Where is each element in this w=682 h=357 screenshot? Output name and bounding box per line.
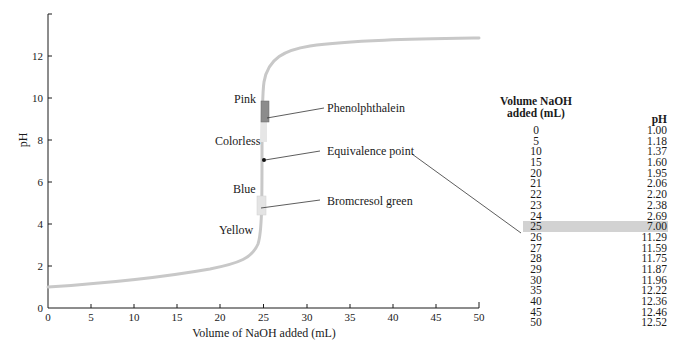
x-tick-30: 30 xyxy=(302,311,314,323)
table-row: 5012.52 xyxy=(490,317,675,328)
label-pink: Pink xyxy=(234,92,256,106)
x-tick-45: 45 xyxy=(431,311,443,323)
header-volume: Volume NaOH added (mL) xyxy=(490,95,582,125)
y-tick-labels: 0 2 4 6 8 10 12 xyxy=(32,50,44,314)
x-tick-25: 25 xyxy=(258,311,270,323)
x-axis-title: Volume of NaOH added (mL) xyxy=(192,326,336,340)
y-tick-12: 12 xyxy=(32,50,43,62)
x-tick-40: 40 xyxy=(388,311,400,323)
label-yellow: Yellow xyxy=(219,223,253,237)
table-row: 232.38 xyxy=(490,200,675,211)
y-tick-0: 0 xyxy=(38,302,44,314)
x-tick-0: 0 xyxy=(45,311,51,323)
header-volume-line1: Volume NaOH xyxy=(490,95,582,107)
x-tick-labels: 0 5 10 15 20 25 30 35 40 45 50 xyxy=(45,311,485,323)
x-tick-20: 20 xyxy=(215,311,227,323)
y-tick-4: 4 xyxy=(38,218,44,230)
leader-lines xyxy=(261,108,521,233)
bromcresol-band xyxy=(257,196,266,215)
label-phenolphthalein: Phenolphthalein xyxy=(327,101,405,115)
header-volume-line2: added (mL) xyxy=(490,107,582,119)
phenolphthalein-band-faint xyxy=(261,120,267,142)
titration-data-table: Volume NaOH added (mL) pH 01.00 51.18 10… xyxy=(490,95,675,328)
y-tick-8: 8 xyxy=(38,134,44,146)
label-colorless: Colorless xyxy=(215,134,261,148)
x-tick-15: 15 xyxy=(172,311,184,323)
cell-ph: 12.52 xyxy=(582,317,675,328)
x-tick-35: 35 xyxy=(345,311,357,323)
label-bromcresol-green: Bromcresol green xyxy=(327,194,413,208)
x-axis xyxy=(48,302,479,308)
x-tick-5: 5 xyxy=(88,311,94,323)
cell-volume: 26 xyxy=(490,232,582,243)
cell-ph: 2.38 xyxy=(582,200,675,211)
cell-volume: 50 xyxy=(490,317,582,328)
phenolphthalein-band xyxy=(261,101,269,122)
cell-ph: 11.29 xyxy=(582,232,675,243)
titration-curve xyxy=(48,38,479,287)
y-tick-2: 2 xyxy=(38,260,44,272)
table-header: Volume NaOH added (mL) pH xyxy=(490,95,675,125)
x-tick-50: 50 xyxy=(474,311,486,323)
label-blue: Blue xyxy=(233,182,256,196)
y-tick-10: 10 xyxy=(32,92,44,104)
y-axis xyxy=(48,14,52,308)
y-axis-title: pH xyxy=(16,132,30,147)
label-equivalence-point: Equivalence point xyxy=(327,144,415,158)
table-body: 01.00 51.18 101.37 151.60 201.95 212.06 … xyxy=(490,125,675,328)
y-tick-6: 6 xyxy=(38,176,44,188)
table-row: 2611.29 xyxy=(490,232,675,243)
x-tick-10: 10 xyxy=(129,311,141,323)
cell-volume: 23 xyxy=(490,200,582,211)
